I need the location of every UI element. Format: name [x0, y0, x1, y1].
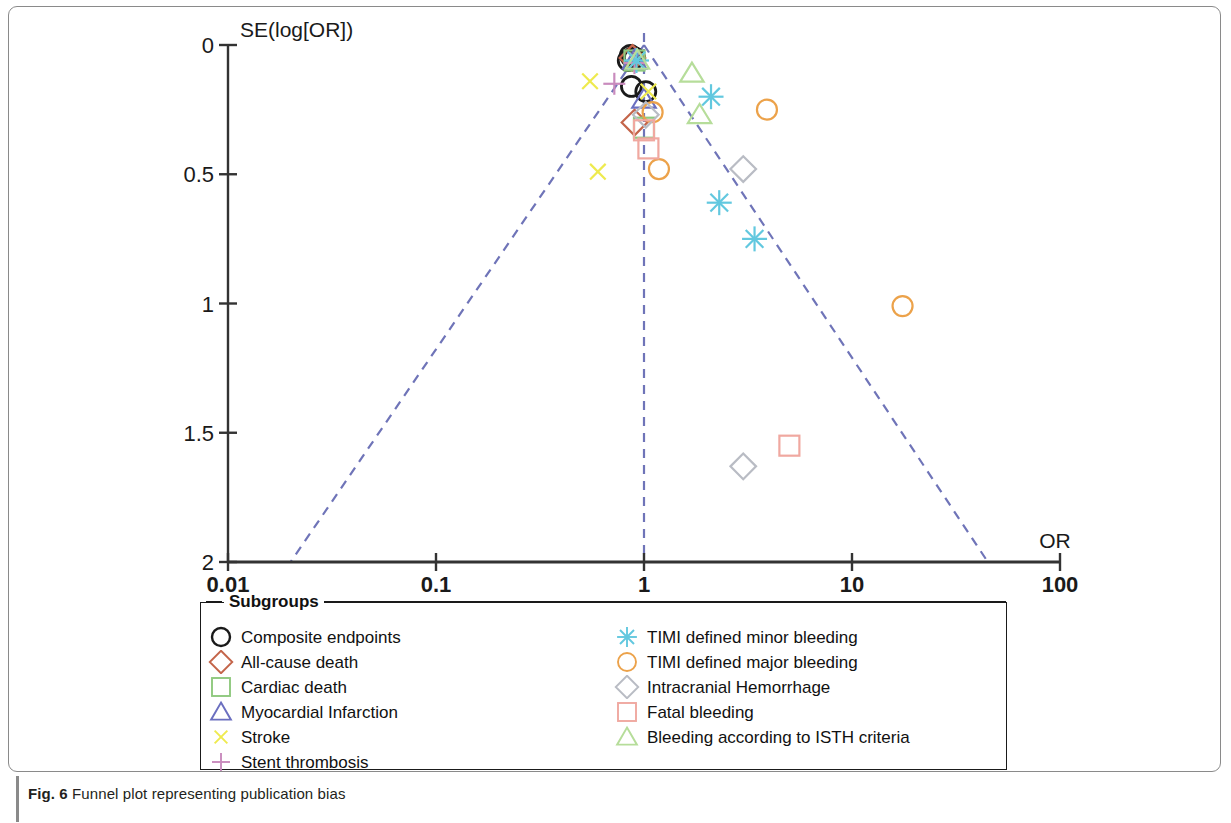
- legend-item-label: Stroke: [241, 729, 290, 746]
- caption-text: Funnel plot representing publication bia…: [68, 785, 346, 802]
- legend-item-left-2: Cardiac death: [207, 675, 607, 700]
- square-icon: [613, 700, 647, 725]
- funnel-plot: 00.511.520.010.1110100SE(log[OR])OR: [0, 0, 1213, 600]
- caption-rule: [16, 776, 19, 822]
- y-axis-label: SE(log[OR]): [240, 18, 353, 41]
- circle-icon: [207, 625, 241, 650]
- y-tick-label-0: 0: [202, 33, 214, 58]
- legend-item-label: All-cause death: [241, 654, 358, 671]
- data-point-asterisk: [699, 84, 724, 109]
- caption-label: Fig. 6: [28, 785, 68, 802]
- legend-item-right-4: Bleeding according to ISTH criteria: [613, 725, 1005, 750]
- legend-item-label: Stent thrombosis: [241, 754, 369, 771]
- data-point-triangle: [680, 63, 703, 82]
- legend-box: Composite endpointsAll-cause deathCardia…: [200, 602, 1007, 770]
- asterisk-icon: [613, 625, 647, 650]
- legend-item-right-0: TIMI defined minor bleeding: [613, 625, 1005, 650]
- legend-item-label: TIMI defined major bleeding: [647, 654, 858, 671]
- legend-item-left-1: All-cause death: [207, 650, 607, 675]
- y-tick-label-1: 0.5: [183, 162, 214, 187]
- legend-item-label: Bleeding according to ISTH criteria: [647, 729, 910, 746]
- x-tick-label-4: 100: [1042, 572, 1079, 597]
- diamond-icon: [207, 650, 241, 675]
- cross-icon: [207, 725, 241, 750]
- legend-item-label: Myocardial Infarction: [241, 704, 398, 721]
- legend-column-right: TIMI defined minor bleedingTIMI defined …: [613, 625, 1005, 750]
- data-point-square: [779, 436, 799, 456]
- plus-icon: [207, 750, 241, 775]
- circle-icon: [613, 650, 647, 675]
- funnel-line-left: [291, 45, 644, 562]
- data-point-circle: [757, 100, 777, 120]
- legend-item-right-3: Fatal bleeding: [613, 700, 1005, 725]
- triangle-icon: [613, 725, 647, 750]
- triangle-icon: [207, 700, 241, 725]
- data-point-cross: [582, 156, 613, 187]
- data-point-diamond: [730, 454, 756, 480]
- legend-title-rule-right: [324, 601, 1006, 603]
- legend-item-left-3: Myocardial Infarction: [207, 700, 607, 725]
- x-axis-label: OR: [1039, 529, 1071, 552]
- legend-item-left-4: Stroke: [207, 725, 607, 750]
- legend-title-rule: [206, 601, 222, 603]
- data-point-asterisk: [707, 190, 732, 215]
- legend-item-label: TIMI defined minor bleeding: [647, 629, 858, 646]
- legend-item-left-0: Composite endpoints: [207, 625, 607, 650]
- data-point-asterisk: [742, 226, 767, 251]
- legend-item-right-2: Intracranial Hemorrhage: [613, 675, 1005, 700]
- legend-item-label: Fatal bleeding: [647, 704, 754, 721]
- legend-item-right-1: TIMI defined major bleeding: [613, 650, 1005, 675]
- data-point-circle: [649, 159, 669, 179]
- legend-item-label: Cardiac death: [241, 679, 347, 696]
- legend-item-left-5: Stent thrombosis: [207, 750, 607, 775]
- legend-item-label: Composite endpoints: [241, 629, 401, 646]
- legend-title: Subgroups: [224, 592, 324, 612]
- diamond-icon: [613, 675, 647, 700]
- figure-caption: Fig. 6 Funnel plot representing publicat…: [28, 785, 346, 802]
- y-tick-label-2: 1: [202, 292, 214, 317]
- data-point-cross: [574, 66, 605, 97]
- x-tick-label-2: 1: [638, 572, 650, 597]
- data-point-diamond: [730, 156, 756, 182]
- x-tick-label-1: 0.1: [421, 572, 452, 597]
- legend-column-left: Composite endpointsAll-cause deathCardia…: [207, 625, 607, 775]
- y-tick-label-3: 1.5: [183, 421, 214, 446]
- data-point-triangle: [688, 104, 711, 123]
- square-icon: [207, 675, 241, 700]
- legend-item-label: Intracranial Hemorrhage: [647, 679, 830, 696]
- x-tick-label-3: 10: [840, 572, 864, 597]
- data-point-circle: [893, 296, 913, 316]
